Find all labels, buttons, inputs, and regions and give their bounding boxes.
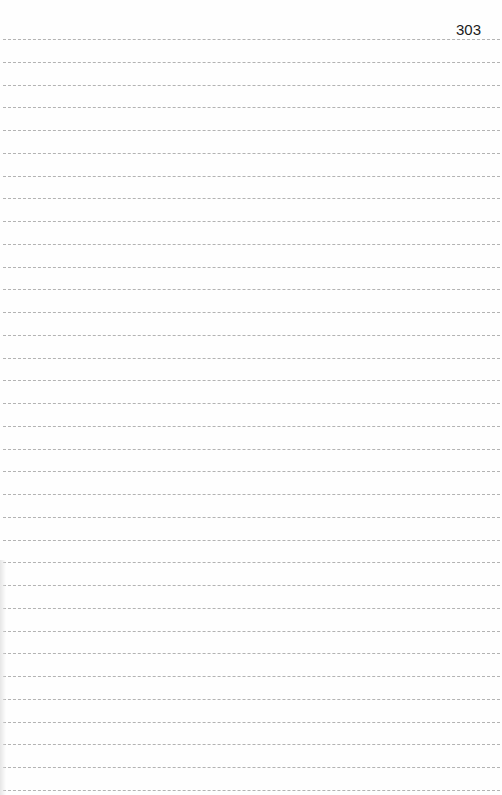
ruled-line [3,517,500,518]
ruled-line [3,608,500,609]
ruled-line [3,631,500,632]
ruled-line [3,449,500,450]
ruled-line [3,289,500,290]
ruled-line [3,130,500,131]
ruled-line [3,335,500,336]
ruled-line [3,62,500,63]
ruled-line [3,699,500,700]
ruled-line [3,494,500,495]
ruled-line [3,471,500,472]
ruled-line [3,312,500,313]
ruled-line [3,267,500,268]
ruled-line [3,198,500,199]
notebook-page: 303 [0,0,502,795]
ruled-line [3,39,500,40]
ruled-line [3,85,500,86]
ruled-line [3,676,500,677]
ruled-line [3,176,500,177]
ruled-line [3,767,500,768]
page-edge-shadow [0,560,6,795]
ruled-line [3,221,500,222]
ruled-line [3,380,500,381]
ruled-line [3,585,500,586]
ruled-line [3,562,500,563]
page-number: 303 [456,22,481,37]
ruled-line [3,540,500,541]
ruled-line [3,744,500,745]
ruled-line [3,653,500,654]
ruled-line [3,107,500,108]
ruled-line [3,722,500,723]
ruled-line [3,244,500,245]
ruled-line [3,790,500,791]
ruled-line [3,358,500,359]
ruled-line [3,153,500,154]
ruled-line [3,426,500,427]
ruled-line [3,403,500,404]
